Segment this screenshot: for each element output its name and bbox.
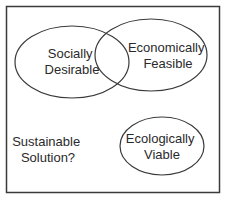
economically-feasible-label: Economically Feasible xyxy=(128,40,208,71)
ecologically-viable-ellipse xyxy=(120,117,204,175)
economically-feasible-ellipse xyxy=(95,19,207,91)
ecologically-label-line2: Viable xyxy=(144,147,180,162)
sustainable-solution-label: Sustainable Solution? xyxy=(12,134,84,165)
ecologically-viable-label: Ecologically Viable xyxy=(126,131,198,162)
economically-label-line2: Feasible xyxy=(143,56,192,71)
socially-desirable-label: Socially Desirable xyxy=(45,46,100,77)
venn-diagram: Socially Desirable Economically Feasible… xyxy=(0,0,225,199)
socially-label-line2: Desirable xyxy=(45,62,100,77)
economically-label-line1: Economically xyxy=(128,40,205,55)
sustainable-label-line2: Solution? xyxy=(21,150,75,165)
sustainable-label-line1: Sustainable xyxy=(12,134,80,149)
ecologically-label-line1: Ecologically xyxy=(126,131,195,146)
socially-label-line1: Socially xyxy=(48,46,93,61)
